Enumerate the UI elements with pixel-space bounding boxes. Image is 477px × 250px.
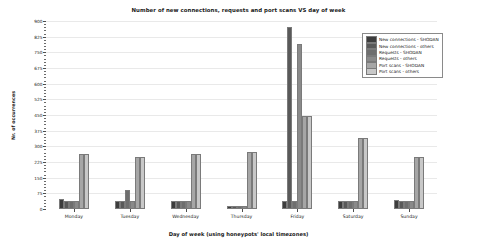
y-axis-tick bbox=[43, 178, 46, 179]
bar bbox=[252, 152, 257, 209]
y-axis-minor-tick bbox=[44, 184, 46, 185]
y-axis-tick-label: 150 bbox=[34, 175, 42, 180]
y-axis-minor-tick bbox=[44, 124, 46, 125]
y-axis-minor-tick bbox=[44, 96, 46, 97]
y-axis-minor-tick bbox=[44, 27, 46, 28]
x-axis-title: Day of week (using honeypots' local time… bbox=[0, 231, 477, 237]
y-axis-title-text: Nr. of occurrences bbox=[11, 91, 16, 140]
x-axis-tick bbox=[242, 209, 243, 212]
bar bbox=[307, 116, 312, 209]
y-axis-tick bbox=[43, 37, 46, 38]
y-axis-tick bbox=[43, 193, 46, 194]
y-axis-minor-tick bbox=[44, 34, 46, 35]
y-axis-minor-tick bbox=[44, 112, 46, 113]
y-axis-tick-label: 900 bbox=[34, 19, 42, 24]
y-axis-tick bbox=[43, 162, 46, 163]
y-axis-tick-label: 225 bbox=[34, 160, 42, 165]
y-axis-tick-label: 525 bbox=[34, 97, 42, 102]
y-axis-minor-tick bbox=[44, 187, 46, 188]
y-axis-minor-tick bbox=[44, 59, 46, 60]
y-axis-minor-tick bbox=[44, 156, 46, 157]
y-axis-minor-tick bbox=[44, 159, 46, 160]
y-axis-tick bbox=[43, 209, 46, 210]
x-axis-tick bbox=[74, 209, 75, 212]
x-axis-tick bbox=[353, 209, 354, 212]
bar bbox=[140, 157, 145, 209]
y-axis-minor-tick bbox=[44, 118, 46, 119]
y-axis-tick-label: 675 bbox=[34, 66, 42, 71]
y-axis-minor-tick bbox=[44, 49, 46, 50]
y-axis-tick bbox=[43, 84, 46, 85]
y-axis-minor-tick bbox=[44, 121, 46, 122]
y-axis-tick bbox=[43, 68, 46, 69]
y-axis-minor-tick bbox=[44, 140, 46, 141]
legend-label: Requests - others bbox=[379, 56, 417, 61]
x-axis-tick bbox=[409, 209, 410, 212]
y-axis-tick-label: 450 bbox=[34, 113, 42, 118]
bar bbox=[287, 27, 292, 209]
y-axis-minor-tick bbox=[44, 200, 46, 201]
y-axis-minor-tick bbox=[44, 190, 46, 191]
y-axis-tick bbox=[43, 115, 46, 116]
x-axis-tick bbox=[297, 209, 298, 212]
legend-label: New connections - others bbox=[379, 44, 434, 49]
y-axis-minor-tick bbox=[44, 81, 46, 82]
y-axis-minor-tick bbox=[44, 43, 46, 44]
y-axis-minor-tick bbox=[44, 46, 46, 47]
y-axis-minor-tick bbox=[44, 30, 46, 31]
y-axis-minor-tick bbox=[44, 40, 46, 41]
y-axis-minor-tick bbox=[44, 181, 46, 182]
y-axis-minor-tick bbox=[44, 149, 46, 150]
y-axis-minor-tick bbox=[44, 74, 46, 75]
chart-title: Number of new connections, requests and … bbox=[0, 7, 477, 13]
y-axis-minor-tick bbox=[44, 206, 46, 207]
y-axis-minor-tick bbox=[44, 134, 46, 135]
y-axis-minor-tick bbox=[44, 171, 46, 172]
y-axis-minor-tick bbox=[44, 77, 46, 78]
y-axis-minor-tick bbox=[44, 90, 46, 91]
y-axis-minor-tick bbox=[44, 153, 46, 154]
y-axis-minor-tick bbox=[44, 168, 46, 169]
y-axis-minor-tick bbox=[44, 71, 46, 72]
y-axis-minor-tick bbox=[44, 203, 46, 204]
y-axis-tick-label: 75 bbox=[37, 191, 42, 196]
bar bbox=[196, 154, 201, 209]
bar bbox=[363, 138, 368, 209]
legend-label: Port scans - SHODAN bbox=[379, 63, 424, 68]
bar-group bbox=[227, 21, 257, 209]
bar-group bbox=[59, 21, 89, 209]
y-axis-minor-tick bbox=[44, 128, 46, 129]
y-axis-minor-tick bbox=[44, 137, 46, 138]
y-axis-minor-tick bbox=[44, 55, 46, 56]
y-axis-minor-tick bbox=[44, 24, 46, 25]
bar-group bbox=[282, 21, 312, 209]
bar-group bbox=[115, 21, 145, 209]
chart-figure: Number of new connections, requests and … bbox=[0, 0, 477, 250]
y-axis-tick-label: 0 bbox=[40, 207, 43, 212]
y-axis-tick-label: 750 bbox=[34, 50, 42, 55]
y-axis-minor-tick bbox=[44, 87, 46, 88]
x-axis-tick bbox=[186, 209, 187, 212]
y-axis-minor-tick bbox=[44, 93, 46, 94]
y-axis-tick-label: 375 bbox=[34, 128, 42, 133]
y-axis-minor-tick bbox=[44, 109, 46, 110]
y-axis-tick bbox=[43, 146, 46, 147]
bar bbox=[84, 154, 89, 209]
y-axis-tick bbox=[43, 131, 46, 132]
chart-legend: New connections - SHODANNew connections … bbox=[362, 33, 443, 78]
y-axis-tick bbox=[43, 52, 46, 53]
y-axis-title: Nr. of occurrences bbox=[8, 21, 18, 209]
y-axis-tick bbox=[43, 21, 46, 22]
y-axis-tick bbox=[43, 99, 46, 100]
y-axis-tick-label: 600 bbox=[34, 81, 42, 86]
bar bbox=[419, 157, 424, 209]
legend-label: New connections - SHODAN bbox=[379, 37, 439, 42]
y-axis-tick-label: 825 bbox=[34, 34, 42, 39]
y-axis-minor-tick bbox=[44, 106, 46, 107]
y-axis-tick-label: 300 bbox=[34, 144, 42, 149]
legend-label: Port scans - others bbox=[379, 69, 419, 74]
y-axis-minor-tick bbox=[44, 143, 46, 144]
x-axis-tick bbox=[130, 209, 131, 212]
legend-item[interactable]: Port scans - others bbox=[366, 68, 439, 74]
legend-label: Requests - SHODAN bbox=[379, 50, 422, 55]
